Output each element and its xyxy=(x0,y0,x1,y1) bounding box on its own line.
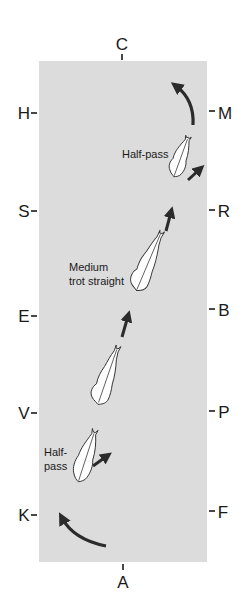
label-medium-trot-line1: Medium xyxy=(69,261,108,273)
marker-V: V xyxy=(18,404,30,423)
label-half-pass-top: Half-pass xyxy=(122,148,169,160)
marker-E: E xyxy=(18,307,29,326)
dressage-arena-diagram: C A H S E V K M R B P F Half-pass Medium… xyxy=(0,0,244,612)
marker-A: A xyxy=(117,573,129,592)
label-half-pass-bottom-line1: Half- xyxy=(44,446,68,458)
marker-B: B xyxy=(218,301,229,320)
marker-C: C xyxy=(116,35,128,54)
marker-R: R xyxy=(218,202,230,221)
marker-P: P xyxy=(218,403,229,422)
marker-S: S xyxy=(18,202,29,221)
label-medium-trot-line2: trot straight xyxy=(69,275,124,287)
marker-M: M xyxy=(218,104,232,123)
marker-H: H xyxy=(18,104,30,123)
label-half-pass-bottom-line2: pass xyxy=(44,460,68,472)
marker-K: K xyxy=(18,506,30,525)
arena xyxy=(39,61,207,562)
marker-F: F xyxy=(218,503,228,522)
